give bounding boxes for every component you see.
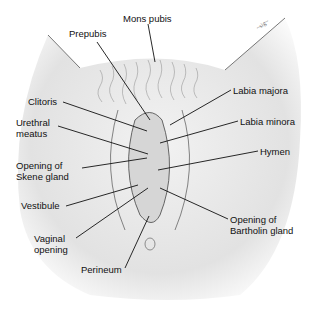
artist-signature: ~sig~ [255,18,270,31]
label-urethral-meatus: Urethral meatus [16,118,50,139]
leader-mons-pubis [148,24,155,62]
label-clitoris: Clitoris [28,97,57,108]
label-prepubis: Prepubis [69,29,107,40]
label-vestibule: Vestibule [21,201,60,212]
label-perineum: Perineum [81,265,122,276]
label-labia-majora: Labia majora [233,86,288,97]
label-opening-skene-gland: Opening of Skene gland [16,161,69,182]
label-opening-bartholin-gland: Opening of Bartholin gland [230,215,293,236]
label-vaginal-opening: Vaginal opening [34,234,68,255]
anatomy-diagram: ~sig~ Mons pubis Prepubis Labia majora C… [0,0,315,309]
label-hymen: Hymen [260,147,290,158]
label-labia-minora: Labia minora [240,117,295,128]
label-mons-pubis: Mons pubis [123,14,172,25]
